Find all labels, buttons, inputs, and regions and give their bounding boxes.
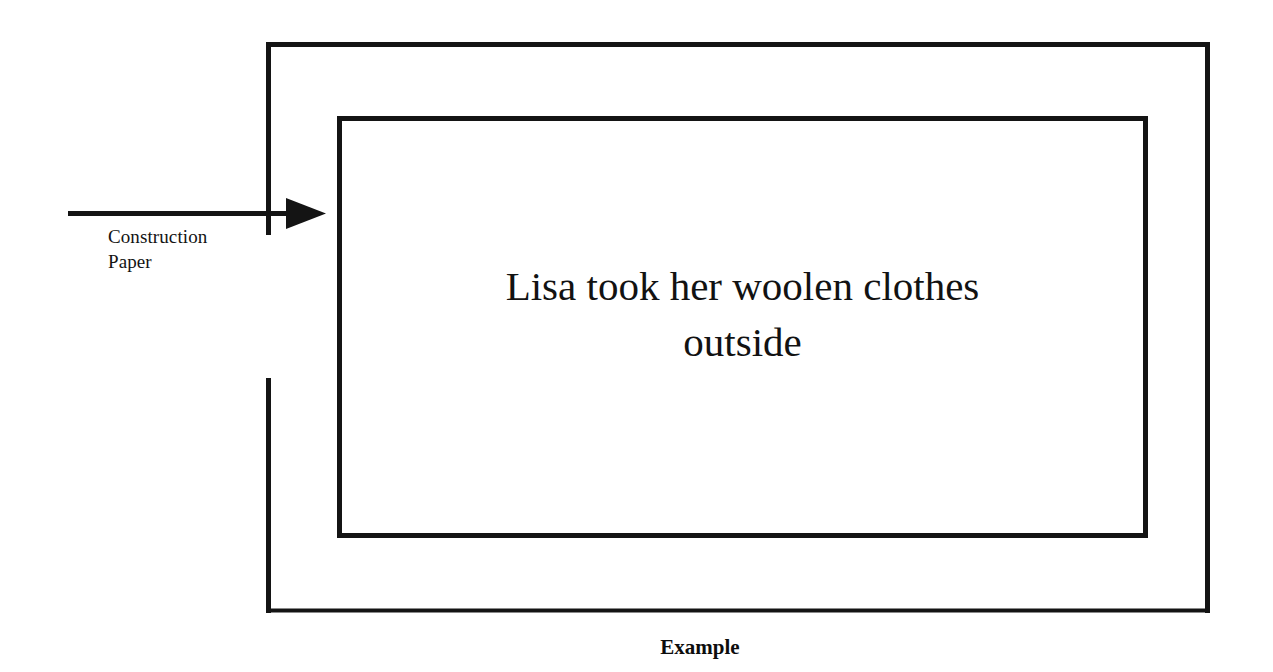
- arrow-label-construction-paper: Construction Paper: [108, 224, 258, 274]
- diagram-canvas: Construction Paper Lisa took her woolen …: [0, 0, 1273, 672]
- inner-frame-text-line-2: outside: [345, 314, 1140, 370]
- arrow-head-icon: [286, 198, 326, 229]
- inner-frame-text-line-1: Lisa took her woolen clothes: [345, 258, 1140, 314]
- diagram-caption: Example: [0, 635, 1273, 660]
- inner-frame-text-block: Lisa took her woolen clothes outside: [345, 258, 1140, 370]
